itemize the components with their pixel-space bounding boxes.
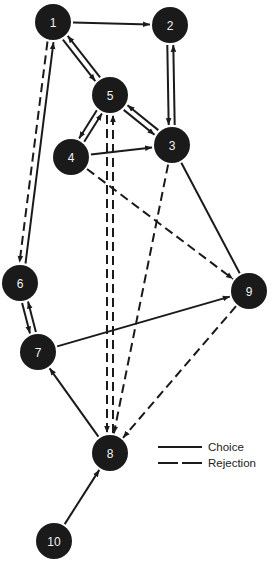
edge-rejection-9-to-8	[123, 306, 236, 438]
edge-rejection-3-to-8	[114, 165, 168, 434]
node-label: 10	[47, 535, 61, 549]
edge-choice-3-to-2	[173, 45, 174, 125]
node-7: 7	[20, 334, 56, 370]
node-2: 2	[152, 7, 188, 43]
node-label: 9	[246, 285, 253, 299]
node-3: 3	[154, 127, 190, 163]
node-8: 8	[92, 435, 128, 471]
edge-choice-2-to-3	[167, 45, 168, 125]
legend: Choice Rejection	[158, 441, 256, 469]
edge-rejection-4-to-9	[87, 169, 233, 279]
node-label: 8	[107, 447, 114, 461]
node-4: 4	[53, 139, 89, 175]
node-label: 4	[68, 151, 75, 165]
legend-item-rejection: Rejection	[158, 457, 256, 469]
edge-choice-1-to-2	[73, 23, 150, 25]
node-label: 2	[167, 19, 174, 33]
edge-choice-3-to-9	[181, 163, 239, 274]
node-label: 3	[169, 139, 176, 153]
edge-choice-7-to-9	[57, 297, 230, 347]
node-6: 6	[2, 265, 38, 301]
sociogram-diagram: 12345678910 Choice Rejection	[0, 0, 274, 571]
node-1: 1	[35, 4, 71, 40]
legend-label-choice: Choice	[208, 441, 244, 453]
node-10: 10	[36, 523, 72, 559]
legend-item-choice: Choice	[158, 441, 244, 453]
edge-choice-1-to-5	[63, 40, 95, 82]
edge-rejection-1-to-6	[20, 42, 48, 263]
edge-choice-4-to-3	[91, 147, 152, 154]
edge-choice-10-to-8	[65, 470, 100, 524]
legend-label-rejection: Rejection	[208, 457, 256, 469]
edge-choice-8-to-7	[50, 368, 99, 436]
node-label: 7	[35, 346, 42, 360]
node-5: 5	[92, 77, 128, 113]
edge-choice-5-to-1	[68, 36, 100, 78]
edges-layer	[20, 23, 240, 525]
node-9: 9	[231, 273, 267, 309]
node-label: 5	[107, 89, 114, 103]
node-label: 6	[17, 277, 24, 291]
edge-choice-6-to-1	[26, 42, 54, 263]
node-label: 1	[50, 16, 57, 30]
